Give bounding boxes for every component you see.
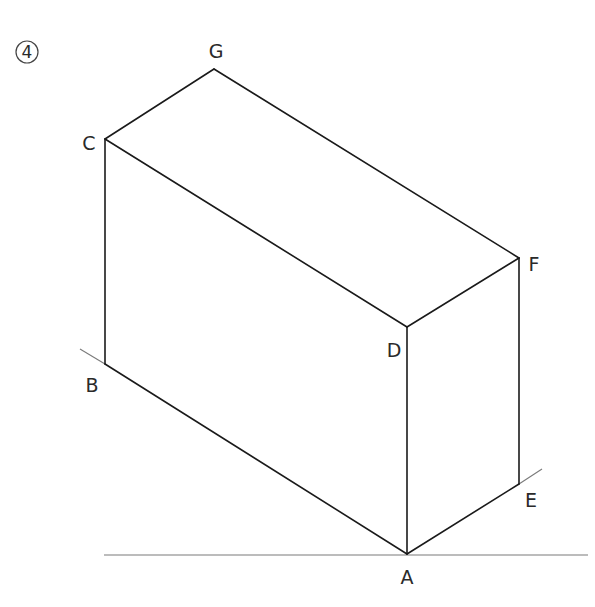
isometric-box-diagram: 4 A B C D E F G (0, 0, 595, 607)
vertex-label-e: E (525, 489, 537, 511)
vertex-label-a: A (401, 566, 414, 588)
extension-line-e (519, 469, 542, 484)
edge-a-e (407, 484, 519, 554)
edge-d-f (407, 258, 519, 327)
vertex-label-b: B (85, 374, 98, 396)
vertex-label-c: C (82, 132, 95, 154)
edge-c-d (105, 139, 407, 327)
vertex-labels: A B C D E F G (82, 40, 539, 588)
edge-a-b (105, 364, 407, 554)
figure-number-badge: 4 (16, 41, 38, 63)
edge-f-g (214, 69, 519, 258)
figure-number: 4 (22, 42, 33, 62)
extension-line-b (80, 349, 105, 364)
vertex-label-f: F (529, 253, 540, 275)
vertex-label-d: D (387, 339, 402, 361)
vertex-label-g: G (209, 40, 224, 62)
box-edges (105, 69, 519, 554)
edge-c-g (105, 69, 214, 139)
